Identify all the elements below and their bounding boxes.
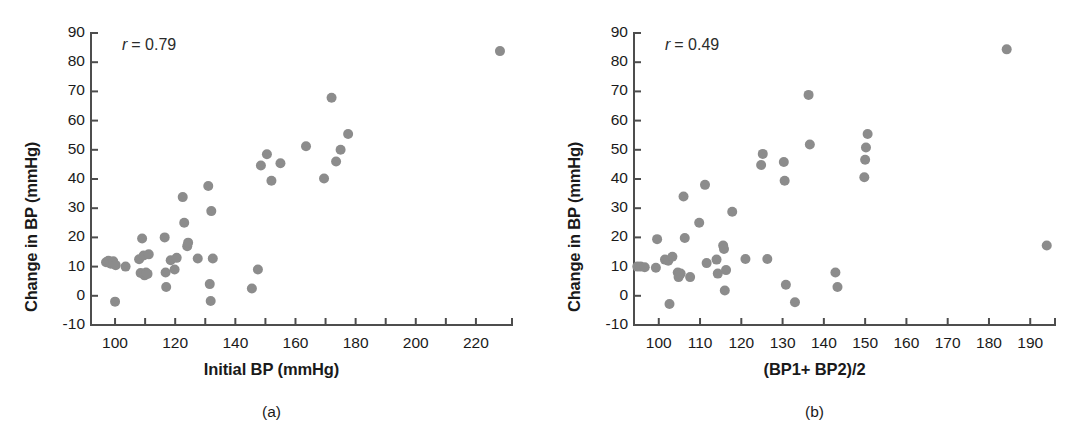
- data-point: [262, 149, 272, 159]
- data-point: [676, 269, 686, 279]
- data-point: [206, 206, 216, 216]
- data-point: [111, 260, 121, 270]
- data-point: [651, 263, 661, 273]
- y-tick-label: 70: [43, 81, 85, 99]
- y-tick-label: 70: [586, 81, 628, 99]
- y-tick-label: 30: [586, 198, 628, 216]
- y-tick-label: 40: [43, 169, 85, 187]
- data-point: [804, 90, 814, 100]
- panel-a: Change in BP (mmHg) Initial BP (mmHg) r=…: [0, 0, 543, 446]
- data-point: [640, 262, 650, 272]
- data-point: [247, 284, 257, 294]
- data-point: [721, 265, 731, 275]
- data-point: [343, 129, 353, 139]
- data-point: [860, 155, 870, 165]
- panel-a-correlation-symbol: r: [122, 36, 127, 53]
- y-tick-label: 90: [43, 23, 85, 41]
- data-point: [863, 129, 873, 139]
- data-point: [665, 299, 675, 309]
- data-point: [160, 232, 170, 242]
- y-tick-label: -10: [586, 315, 628, 333]
- data-point: [861, 142, 871, 152]
- data-point: [256, 161, 266, 171]
- data-point: [859, 172, 869, 182]
- data-point: [253, 265, 263, 275]
- y-tick-label: 90: [586, 23, 628, 41]
- data-point: [685, 272, 695, 282]
- data-point: [830, 267, 840, 277]
- data-point: [208, 253, 218, 263]
- data-point: [144, 249, 154, 259]
- data-point: [266, 176, 276, 186]
- data-point: [178, 192, 188, 202]
- data-point: [781, 280, 791, 290]
- data-point: [161, 282, 171, 292]
- panel-a-correlation-value: = 0.79: [131, 36, 176, 53]
- data-point: [193, 253, 203, 263]
- x-tick-label: 180: [326, 334, 386, 352]
- panel-b: Change in BP (mmHg) (BP1+ BP2)/2 r= 0.49…: [543, 0, 1086, 446]
- y-tick-label: 10: [586, 257, 628, 275]
- y-tick-label: 0: [586, 286, 628, 304]
- x-tick-label: 160: [265, 334, 325, 352]
- data-point: [762, 254, 772, 264]
- data-point: [183, 238, 193, 248]
- y-tick-label: 60: [43, 111, 85, 129]
- data-point: [694, 218, 704, 228]
- x-tick-label: 120: [145, 334, 205, 352]
- data-point: [179, 218, 189, 228]
- data-point: [275, 158, 285, 168]
- data-point: [121, 262, 131, 272]
- data-point: [700, 180, 710, 190]
- y-tick-label: 10: [43, 257, 85, 275]
- panel-a-caption: (a): [0, 403, 543, 421]
- x-tick-label: 220: [446, 334, 506, 352]
- data-point: [110, 297, 120, 307]
- data-point: [327, 93, 337, 103]
- y-tick-label: 50: [586, 140, 628, 158]
- data-point: [331, 156, 341, 166]
- data-point: [1042, 241, 1052, 251]
- data-point: [319, 173, 329, 183]
- data-point: [790, 297, 800, 307]
- data-point: [203, 181, 213, 191]
- panel-b-correlation-symbol: r: [665, 36, 670, 53]
- data-point: [720, 286, 730, 296]
- y-tick-label: 60: [586, 111, 628, 129]
- data-point: [652, 234, 662, 244]
- data-point: [336, 145, 346, 155]
- panel-b-y-axis-label: Change in BP (mmHg): [565, 142, 584, 312]
- data-point: [495, 46, 505, 56]
- panel-b-correlation-annotation: r= 0.49: [665, 36, 719, 54]
- y-tick-label: 80: [586, 52, 628, 70]
- x-tick-label: 140: [205, 334, 265, 352]
- y-tick-label: 20: [586, 227, 628, 245]
- data-point: [143, 269, 153, 279]
- y-tick-label: 80: [43, 52, 85, 70]
- data-point: [719, 244, 729, 254]
- data-point: [206, 296, 216, 306]
- data-point: [301, 141, 311, 151]
- panel-b-correlation-value: = 0.49: [674, 36, 719, 53]
- x-tick-label: 200: [386, 334, 446, 352]
- panel-a-correlation-annotation: r= 0.79: [122, 36, 176, 54]
- data-point: [680, 233, 690, 243]
- x-tick-label: 100: [85, 334, 145, 352]
- data-point: [667, 252, 677, 262]
- y-tick-label: 50: [43, 140, 85, 158]
- data-point: [170, 265, 180, 275]
- data-point: [205, 279, 215, 289]
- panel-a-x-axis-label: Initial BP (mmHg): [0, 360, 543, 379]
- data-point: [758, 149, 768, 159]
- data-point: [1002, 44, 1012, 54]
- y-tick-label: 0: [43, 286, 85, 304]
- data-point: [779, 157, 789, 167]
- x-tick-label: 190: [1000, 334, 1060, 352]
- y-tick-label: 30: [43, 198, 85, 216]
- data-point: [702, 258, 712, 268]
- data-point: [679, 192, 689, 202]
- panel-b-x-axis-label: (BP1+ BP2)/2: [543, 360, 1086, 379]
- scatter-figure: Change in BP (mmHg) Initial BP (mmHg) r=…: [0, 0, 1086, 446]
- data-point: [780, 176, 790, 186]
- data-point: [740, 254, 750, 264]
